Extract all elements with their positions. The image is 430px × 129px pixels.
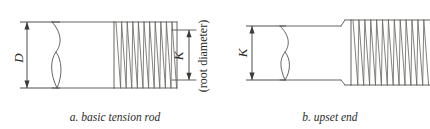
caption-panel-a: a. basic tension rod — [70, 111, 161, 123]
panel-a-thread-boundaries — [114, 22, 177, 88]
panel-a-basic-tension-rod: D — [11, 20, 210, 123]
panel-b-rod-outline — [280, 26, 341, 80]
caption-panel-b: b. upset end — [302, 111, 358, 124]
tension-rod-diagram: D — [0, 0, 430, 129]
panel-b-upset-end: K — [235, 20, 430, 124]
panel-b-break-line — [280, 26, 290, 80]
panel-b-thread-profile — [353, 20, 429, 85]
root-diameter-annotation: (root diameter) — [196, 20, 210, 92]
technical-drawing-figure: D — [0, 0, 430, 129]
dimension-label-k-panel-a: K — [171, 50, 186, 61]
k-dimension-line-panel-a — [186, 30, 191, 80]
panel-a-rod-outline — [52, 22, 114, 88]
k-dimension-line-panel-b — [249, 26, 254, 80]
panel-a-thread-profile — [116, 22, 177, 88]
dimension-label-k-panel-b: K — [235, 47, 250, 58]
panel-b-upset-shoulder — [341, 20, 351, 85]
panel-a-break-line — [52, 22, 61, 88]
dimension-label-d: D — [11, 53, 26, 64]
